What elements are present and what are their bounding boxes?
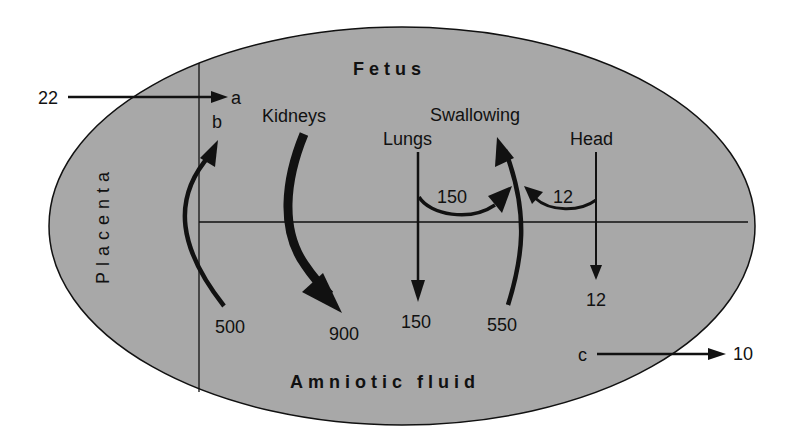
flow-lungs-value: 150 [401,313,431,331]
kidneys-label: Kidneys [262,107,326,125]
flow-kidneys-value: 900 [329,325,359,343]
letter-b: b [212,113,222,131]
compartment-ellipse [49,27,755,425]
letter-a: a [231,89,241,107]
swallowing-label: Swallowing [430,106,520,124]
flow-output-value: 10 [733,345,753,363]
flow-head-value: 12 [586,291,606,309]
flow-head-swallowing-value: 12 [553,188,573,206]
lungs-label: Lungs [383,130,432,148]
fetus-label: Fetus [353,60,426,78]
letter-c: c [578,346,587,364]
head-label: Head [570,130,613,148]
flow-swallowing-value: 550 [487,316,517,334]
flow-placenta-value: 500 [215,318,245,336]
placenta-label: Placenta [93,166,114,284]
amniotic-fluid-label: Amniotic fluid [290,373,480,391]
fluid-exchange-diagram: Fetus Amniotic fluid Placenta 22 a b Kid… [0,0,793,436]
output-arrowhead [708,348,726,360]
flow-input-value: 22 [38,89,58,107]
flow-lungs-swallowing-value: 150 [437,188,467,206]
